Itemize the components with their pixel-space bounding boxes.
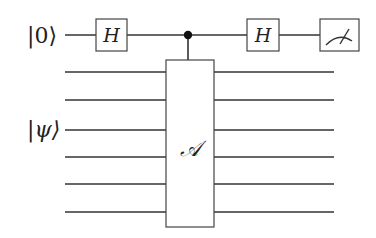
hadamard-gate-2: H [247, 19, 279, 51]
register-wires-right [214, 72, 334, 212]
hadamard-1-label: H [102, 24, 120, 46]
hadamard-2-label: H [254, 24, 272, 46]
hadamard-gate-1: H [96, 19, 127, 51]
measurement-meter-icon [320, 19, 359, 51]
register-wires-left [65, 72, 166, 212]
control-dot-icon [184, 31, 192, 39]
control-qubit-label: |0⟩ [27, 23, 57, 49]
controlled-unitary-gate: 𝒜 [166, 60, 214, 227]
quantum-circuit: H 𝒜 H |0⟩ |ψ⟩ [0, 0, 376, 238]
register-state-label: |ψ⟩ [27, 117, 60, 143]
